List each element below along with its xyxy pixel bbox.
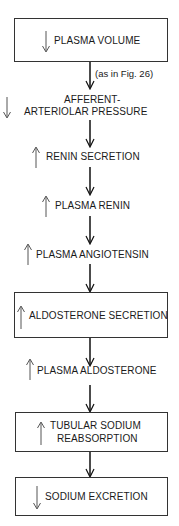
flow-arrow <box>84 264 96 293</box>
arrow-up-icon <box>42 195 50 217</box>
arrow-up-icon <box>37 421 45 445</box>
flow-arrow <box>84 385 96 413</box>
node-tubular-sodium-reabsorption: TUBULAR SODIUM REABSORPTION <box>15 412 168 452</box>
flow-arrow <box>84 338 96 367</box>
arrow-up-icon <box>32 146 40 168</box>
node-plasma-angiotensin: PLASMA ANGIOTENSIN <box>36 249 149 261</box>
flow-arrow <box>84 452 96 478</box>
node-afferent-line1: AFFERENT- <box>64 94 120 106</box>
arrow-up-icon <box>24 243 32 265</box>
node-afferent-line2: ARTERIOLAR PRESSURE <box>24 106 147 118</box>
arrow-down-icon <box>42 31 50 53</box>
node-label: PLASMA VOLUME <box>54 35 140 47</box>
arrow-down-icon <box>33 486 41 510</box>
flow-arrow <box>84 120 96 148</box>
arrow-up-icon <box>26 358 34 380</box>
edge-note: (as in Fig. 26) <box>95 68 153 79</box>
flow-arrow <box>84 167 96 196</box>
arrow-down-icon <box>3 97 11 119</box>
node-label-line2: REABSORPTION <box>57 433 138 445</box>
arrow-up-icon <box>17 305 25 329</box>
flow-arrow <box>84 216 96 245</box>
node-aldosterone-secretion: ALDOSTERONE SECRETION <box>14 292 168 338</box>
node-label: ALDOSTERONE SECRETION <box>29 310 168 322</box>
node-plasma-renin: PLASMA RENIN <box>55 200 130 212</box>
node-renin-secretion: RENIN SECRETION <box>46 151 140 163</box>
node-label-line1: TUBULAR SODIUM <box>50 420 141 432</box>
node-plasma-volume: PLASMA VOLUME <box>14 18 168 62</box>
node-sodium-excretion: SODIUM EXCRETION <box>15 477 168 516</box>
node-label: SODIUM EXCRETION <box>45 491 148 503</box>
node-plasma-aldosterone: PLASMA ALDOSTERONE <box>37 365 157 377</box>
